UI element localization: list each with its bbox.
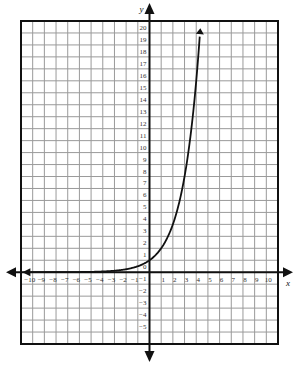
x-tick-label: 7 [232,276,236,284]
x-tick-label: 1 [161,276,165,284]
x-tick-label: −5 [84,276,92,284]
x-tick-label: −10 [24,276,35,284]
y-tick-label: 19 [140,36,148,44]
x-axis-label: x [285,278,290,288]
y-tick-label: 11 [140,132,147,140]
x-tick-label: −4 [96,276,104,284]
y-axis-label: y [139,4,144,14]
y-tick-label: 7 [143,179,147,187]
y-tick-label: −2 [139,287,147,295]
x-axis-right-arrow-icon [283,267,293,277]
y-tick-label: 1 [143,251,147,259]
x-axis-left-arrow-icon [6,267,16,277]
x-tick-label: −2 [119,276,127,284]
y-tick-label: 10 [140,144,148,152]
y-tick-label: 12 [140,120,148,128]
x-tick-label: 4 [196,276,200,284]
y-tick-label: 2 [143,239,147,247]
y-tick-label: 20 [140,24,148,32]
y-tick-label: 9 [143,156,147,164]
y-tick-label: −1 [139,275,147,283]
x-tick-label: 10 [265,276,273,284]
y-tick-label: 8 [143,168,147,176]
x-tick-label: 3 [185,276,189,284]
x-tick-label: 2 [173,276,177,284]
y-tick-label: −3 [139,299,147,307]
x-tick-label: 5 [208,276,212,284]
y-axis-up-arrow-icon [145,3,155,14]
x-tick-label: −3 [108,276,116,284]
tick-labels: xy−10−9−8−7−6−5−4−3−2−112345678910201918… [24,4,290,331]
x-tick-label: 6 [220,276,224,284]
x-tick-label: 8 [243,276,247,284]
y-tick-label: 5 [143,203,147,211]
y-tick-label: 16 [140,72,148,80]
y-tick-label: −5 [139,323,147,331]
y-tick-label: 4 [143,215,147,223]
coordinate-plane: xy−10−9−8−7−6−5−4−3−2−112345678910201918… [0,0,299,367]
y-tick-label: 13 [140,108,148,116]
y-tick-label: 6 [143,191,147,199]
y-tick-label: 18 [140,48,148,56]
curve-left-arrow-icon [22,268,30,276]
y-tick-label: 17 [140,60,148,68]
y-axis-down-arrow-icon [145,351,155,362]
x-tick-label: 9 [255,276,259,284]
x-tick-label: −8 [49,276,57,284]
y-tick-label: 3 [143,227,147,235]
x-tick-label: −7 [61,276,69,284]
y-tick-label: 15 [140,84,148,92]
curve-top-arrow-icon [196,28,204,34]
y-tick-label: 14 [140,96,148,104]
x-tick-label: −9 [38,276,46,284]
x-tick-label: −1 [131,276,139,284]
y-tick-label: −4 [139,311,147,319]
x-tick-label: −6 [73,276,81,284]
